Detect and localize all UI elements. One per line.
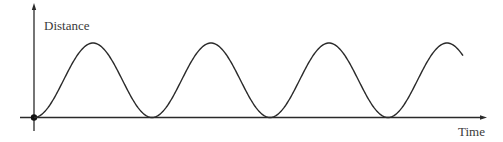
x-axis-label: Time	[458, 125, 485, 138]
y-axis-label: Distance	[44, 19, 89, 32]
y-axis-arrow-icon	[32, 3, 36, 10]
oscillation-curve	[34, 43, 463, 118]
x-axis-arrow-icon	[480, 115, 487, 119]
